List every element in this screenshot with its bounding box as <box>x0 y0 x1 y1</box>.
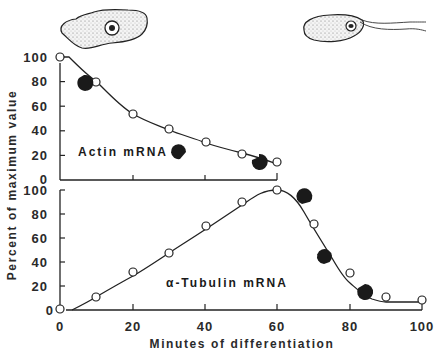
x-tick-40: 40 <box>197 319 213 334</box>
tubulin-panel: 0 20 40 60 80 100 0 20 40 60 80 100 Minu… <box>23 183 434 351</box>
actin-y-tick-100: 100 <box>23 50 48 65</box>
actin-y-tick-20: 20 <box>32 148 48 163</box>
x-tick-80: 80 <box>342 319 358 334</box>
x-tick-60: 60 <box>269 319 285 334</box>
tubulin-y-tick-40: 40 <box>32 255 48 270</box>
actin-y-tick-60: 60 <box>32 99 48 114</box>
x-tick-100: 100 <box>410 319 435 334</box>
tubulin-y-tick-60: 60 <box>32 231 48 246</box>
tubulin-series-label: α-Tubulin mRNA <box>166 276 288 290</box>
amoeboid-cell-illustration <box>61 10 147 49</box>
tubulin-y-tick-20: 20 <box>32 279 48 294</box>
actin-y-tick-80: 80 <box>32 74 48 89</box>
actin-panel: 0 20 40 60 80 100 Actin mRNA <box>23 50 281 187</box>
figure: Percent of maximum value 0 20 40 60 80 1… <box>0 0 446 356</box>
actin-series-label: Actin mRNA <box>78 145 168 159</box>
tubulin-filled-markers <box>293 185 375 302</box>
y-axis-title: Percent of maximum value <box>5 90 19 280</box>
actin-y-tick-40: 40 <box>32 123 48 138</box>
tubulin-y-tick-100: 100 <box>23 183 48 198</box>
flagellate-cell-illustration <box>304 15 426 42</box>
tubulin-y-tick-0: 0 <box>46 303 54 318</box>
tubulin-y-tick-80: 80 <box>32 207 48 222</box>
x-tick-0: 0 <box>56 319 64 334</box>
x-tick-20: 20 <box>125 319 141 334</box>
x-axis-title: Minutes of differentiation <box>150 337 335 351</box>
